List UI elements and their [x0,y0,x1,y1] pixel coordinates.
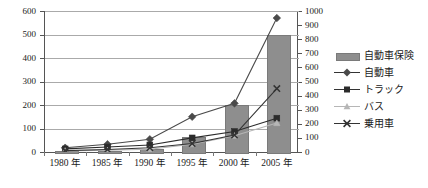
right-axis-tick-mark [298,110,302,111]
line-series [62,85,280,152]
right-axis-tick-label: 900 [305,21,339,30]
left-axis-tick-label: 400 [6,54,36,63]
left-axis-tick-label: 100 [6,124,36,133]
right-axis-tick-mark [298,138,302,139]
right-axis-tick-label: 100 [305,133,339,142]
x-axis-tick-mark [129,152,130,156]
left-axis-tick-label: 600 [6,7,36,16]
x-axis-tick-mark [256,152,257,156]
chart-legend: 自動車保険自動車トラックバス乗用車 [334,47,428,132]
gridline [45,152,299,153]
triangle-key-icon [334,100,360,113]
x-axis-tick-mark [171,152,172,156]
chart-container: 0100200300400500600 01002003004005006007… [0,0,428,188]
data-point-marker [274,85,280,91]
line-series-overlay [44,11,298,152]
legend-label: 自動車保険 [360,50,414,62]
right-axis-tick-label: 800 [305,35,339,44]
x-axis-tick-mark [86,152,87,156]
right-axis-tick-label: 0 [305,148,339,157]
left-axis-tick-label: 0 [6,148,36,157]
x-axis-tick-mark [213,152,214,156]
right-axis-tick-mark [298,53,302,54]
line-series [61,14,280,151]
x-axis-tick-mark [44,152,45,156]
left-axis-tick-label: 500 [6,30,36,39]
diamond-key-icon [334,66,360,79]
left-axis-tick-label: 200 [6,101,36,110]
data-point-marker [231,100,239,108]
data-point-marker [188,113,196,121]
legend-label: 自動車 [360,67,394,79]
right-axis-tick-label: 1000 [305,7,339,16]
right-axis-tick-mark [298,67,302,68]
legend-item[interactable]: バス [334,98,428,115]
legend-item[interactable]: 自動車 [334,64,428,81]
right-axis-tick-mark [298,25,302,26]
legend-item[interactable]: 自動車保険 [334,47,428,64]
square-key-icon [334,83,360,96]
x-axis-tick-label: 2005 年 [251,158,303,168]
right-axis-tick-mark [298,96,302,97]
data-point-marker [189,135,195,141]
legend-item[interactable]: 乗用車 [334,115,428,132]
cross-key-icon [334,117,360,130]
left-axis-tick-label: 300 [6,77,36,86]
legend-label: 乗用車 [360,118,394,130]
right-axis-tick-mark [298,124,302,125]
bar-key-icon [334,49,360,62]
legend-item[interactable]: トラック [334,81,428,98]
legend-label: バス [360,101,384,113]
data-point-marker [273,14,281,22]
right-axis-tick-mark [298,39,302,40]
legend-label: トラック [360,84,404,96]
